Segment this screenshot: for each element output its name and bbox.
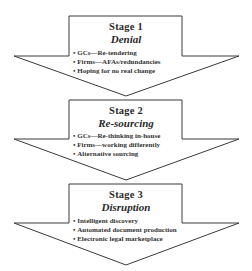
bullet-item: Hoping for no real change bbox=[73, 67, 213, 76]
stage-3-name: Disruption bbox=[69, 201, 183, 214]
bullet-item: Automated document production bbox=[73, 226, 213, 235]
bullet-item: Firms—AFAs/redundancies bbox=[73, 58, 213, 67]
stage-1-number: Stage 1 bbox=[69, 21, 183, 33]
stage-2-number: Stage 2 bbox=[69, 105, 183, 117]
stage-2-name: Re-sourcing bbox=[69, 117, 183, 130]
stage-3-bullets: Intelligent discovery Automated document… bbox=[73, 217, 213, 244]
bullet-item: GCs—Re-thinking in-house bbox=[73, 132, 213, 141]
bullet-item: Firms—working differently bbox=[73, 141, 213, 150]
bullet-item: GCs—Re-tendering bbox=[73, 49, 213, 58]
stage-1-name: Denial bbox=[69, 33, 183, 46]
stage-3-heading: Stage 3 Disruption bbox=[69, 189, 183, 214]
stage-1-heading: Stage 1 Denial bbox=[69, 21, 183, 46]
bullet-item: Intelligent discovery bbox=[73, 217, 213, 226]
stage-2-heading: Stage 2 Re-sourcing bbox=[69, 105, 183, 130]
stage-2-bullets: GCs—Re-thinking in-house Firms—working d… bbox=[73, 132, 213, 159]
bullet-item: Alternative sourcing bbox=[73, 150, 213, 159]
stage-3-number: Stage 3 bbox=[69, 189, 183, 201]
stage-1-bullets: GCs—Re-tendering Firms—AFAs/redundancies… bbox=[73, 49, 213, 76]
bullet-item: Electronic legal marketplace bbox=[73, 235, 213, 244]
